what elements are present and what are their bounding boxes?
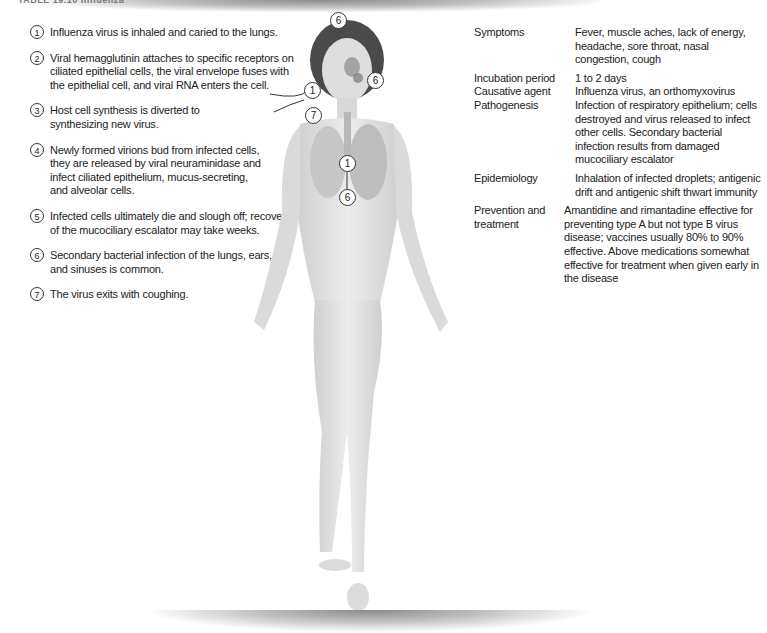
step-number: 4: [30, 143, 44, 157]
step-number: 1: [30, 25, 44, 39]
table-row: Incubation period1 to 2 days: [474, 72, 764, 86]
table-row: SymptomsFever, muscle aches, lack of ene…: [474, 26, 764, 67]
row-value: Inhalation of infected droplets; antigen…: [575, 172, 764, 199]
step-number: 7: [30, 287, 44, 301]
row-value: Fever, muscle aches, lack of energy, hea…: [575, 26, 764, 67]
row-key: Prevention and treatment: [474, 204, 564, 286]
human-body-illustration: [240, 12, 480, 612]
page-title: TABLE 19.10 Influenza: [18, 0, 124, 5]
row-key: Incubation period: [474, 72, 575, 86]
row-key: Epidemiology: [474, 172, 575, 199]
row-key: Pathogenesis: [474, 99, 575, 167]
table-row: Causative agentInfluenza virus, an ortho…: [474, 85, 764, 99]
step-text: The virus exits with coughing.: [50, 288, 188, 302]
row-value: Infection of respiratory epithelium; cel…: [575, 99, 764, 167]
row-key: Symptoms: [474, 26, 575, 67]
table-row: Prevention and treatmentAmantidine and r…: [474, 204, 764, 286]
row-value: Amantidine and rimantadine effective for…: [564, 204, 764, 286]
step-number: 3: [30, 103, 44, 117]
row-value: Influenza virus, an orthomyxovirus: [575, 85, 764, 99]
callout-lung-in: 1: [339, 155, 356, 172]
table-row: PathogenesisInfection of respiratory epi…: [474, 99, 764, 167]
bottom-shadow-band: [150, 610, 590, 632]
callout-head: 6: [330, 12, 347, 29]
callout-mouth-out: 7: [305, 107, 322, 124]
step-number: 6: [30, 248, 44, 262]
step-number: 2: [30, 51, 44, 65]
callout-ear: 6: [367, 72, 384, 89]
row-key: Causative agent: [474, 85, 575, 99]
callout-lung-out: 6: [339, 189, 356, 206]
step-text: Newly formed virions bud from infected c…: [50, 144, 265, 198]
row-value: 1 to 2 days: [575, 72, 764, 86]
step-number: 5: [30, 209, 44, 223]
table-row: EpidemiologyInhalation of infected dropl…: [474, 172, 764, 199]
callout-nose-in: 1: [304, 82, 321, 99]
step-text: Host cell synthesis is diverted to synth…: [50, 104, 250, 131]
body-figure: 6 6 1 7 1 6: [240, 12, 480, 612]
disease-table: SymptomsFever, muscle aches, lack of ene…: [474, 26, 764, 291]
